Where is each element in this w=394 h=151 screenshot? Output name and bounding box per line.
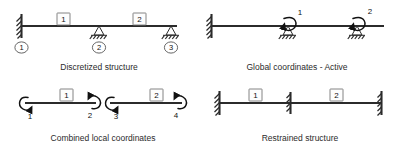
panel-restrained-structure: 1 2 Restrained structure [215,89,383,143]
node-label-text: 2 [97,43,101,52]
element-label-1-panel3: 1 [60,89,73,101]
dof-arrow-4-panel3: 4 [174,96,187,120]
element-label-2-panel4: 2 [330,89,343,101]
panel-combined-local-coordinates: 1 2 1 2 3 4 Combined local coordinates [20,89,187,143]
node-label-2: 2 [92,42,105,53]
dof-label-text: 1 [28,112,33,121]
node-label-text: 1 [19,43,23,52]
node-label-3: 3 [164,42,177,53]
dof-label-text: 3 [114,112,119,121]
element-label-text: 2 [334,91,339,100]
element-label-2-panel1: 2 [133,13,146,25]
panel-global-coordinates: 1 2 Global coordinates - Active [207,7,385,73]
support-pin-node3 [162,26,179,39]
support-pin-node2 [90,26,107,39]
support-fixed-wall-node1 [17,14,22,39]
dof-label-text: 1 [298,8,303,17]
element-label-1-panel1: 1 [57,13,70,25]
element-label-text: 1 [253,91,258,100]
support-fixed-wall-left-panel2 [207,14,212,39]
element-label-text: 1 [61,15,66,24]
caption-restrained-structure: Restrained structure [262,133,339,143]
dof-arrow-3-panel3: 3 [106,97,119,121]
caption-combined-local-coordinates: Combined local coordinates [51,133,156,143]
dof-label-text: 2 [368,7,373,16]
node-label-1: 1 [15,42,28,53]
node-label-text: 3 [169,43,173,52]
dof-arrow-2-panel3: 2 [88,96,101,120]
element-label-1-panel4: 1 [249,89,262,101]
element-label-text: 2 [137,15,142,24]
dof-label-text: 2 [88,111,93,120]
element-label-text: 1 [64,91,69,100]
caption-global-coordinates: Global coordinates - Active [246,62,347,72]
element-label-2-panel3: 2 [150,89,163,101]
dof-arrow-1-panel3: 1 [20,97,33,121]
dof-arrow-1-panel2: 1 [284,8,303,30]
caption-discretized-structure: Discretized structure [60,62,138,72]
element-label-text: 2 [154,91,159,100]
panel-discretized-structure: 1 2 1 2 3 Discretized structure [15,13,179,72]
dof-label-text: 4 [174,111,179,120]
engineering-figure: 1 2 1 2 3 Discretized structure [0,0,394,151]
support-fixed-wall-left-panel4 [215,91,220,116]
